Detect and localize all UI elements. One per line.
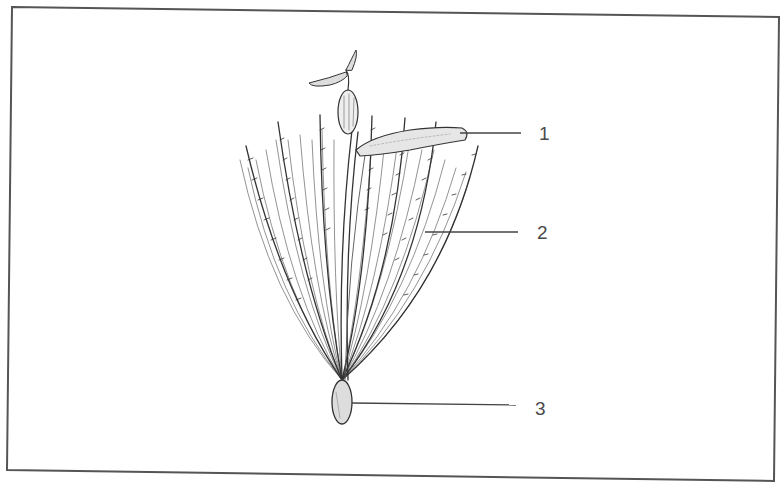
callout-label-1: 1: [539, 124, 550, 143]
callout-label-2: 2: [537, 223, 548, 242]
figure-frame: [7, 7, 779, 481]
plant-illustration: [240, 50, 478, 424]
callout-label-3: 3: [535, 399, 546, 418]
botanical-figure: [0, 0, 781, 489]
callout-leaders: [352, 133, 521, 405]
leader-line-3: [352, 403, 516, 405]
